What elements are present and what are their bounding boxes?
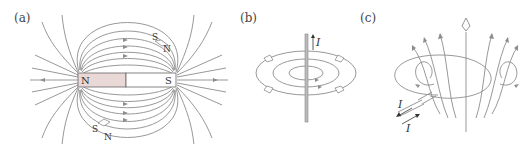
current-loop-field-diagram: I I: [360, 0, 530, 154]
svg-text:S: S: [152, 32, 158, 42]
current-label: I: [315, 36, 321, 49]
panel-straight-wire: (b) I: [240, 0, 360, 154]
straight-wire-field-diagram: I: [240, 0, 360, 154]
svg-text:N: N: [104, 132, 112, 142]
svg-text:N: N: [163, 44, 171, 54]
south-pole-label: S: [165, 75, 172, 86]
axis-compass-icon: [462, 18, 470, 31]
panel-current-loop: (c): [360, 0, 530, 154]
current-out-label: I: [405, 122, 411, 135]
compass-needle-bottom: S N: [92, 119, 112, 142]
north-pole-label: N: [81, 75, 90, 86]
current-in-label: I: [397, 98, 403, 111]
wire: [305, 34, 308, 122]
panel-bar-magnet: (a): [0, 0, 240, 154]
bar-magnet-field-diagram: N S S N S N: [0, 0, 240, 154]
svg-text:S: S: [92, 124, 98, 134]
